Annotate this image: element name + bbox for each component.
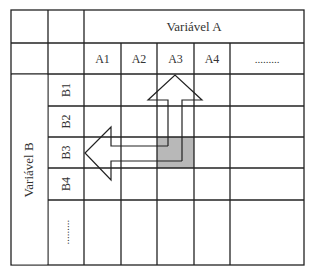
column-header-a3: A3 [168, 52, 183, 66]
row-header-b1: B1 [59, 83, 73, 97]
column-header-more: ......... [255, 53, 280, 65]
column-header-a2: A2 [132, 52, 147, 66]
contingency-table-diagram: Variável A A1 A2 A3 A4 ......... Variáve… [0, 0, 312, 275]
highlighted-cell-a3-b3 [157, 137, 194, 168]
row-header-b2: B2 [59, 114, 73, 128]
row-header-more: ......... [59, 219, 71, 244]
column-header-a1: A1 [95, 52, 110, 66]
table-grid [11, 10, 304, 265]
row-header-b3: B3 [59, 145, 73, 159]
row-header-b4: B4 [59, 177, 73, 191]
column-header-a4: A4 [205, 52, 220, 66]
variable-b-title: Variável B [21, 142, 36, 198]
variable-a-title: Variável A [166, 19, 222, 34]
